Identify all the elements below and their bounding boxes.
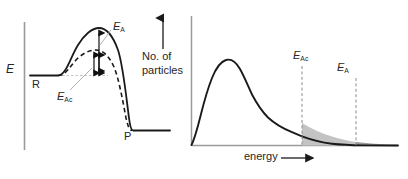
left-y-axis-label: E	[6, 63, 14, 76]
ea-leader-line	[100, 30, 111, 45]
x-axis-label-energy: energy	[244, 151, 278, 163]
uncatalyzed-energy-curve	[30, 28, 170, 131]
catalyzed-activation-energy-sub-subscript: c	[69, 96, 72, 103]
no-of-particles-line1: No. of	[142, 50, 171, 62]
product-label: P	[124, 131, 131, 143]
shaded-area-catalyzed-fraction	[302, 123, 356, 146]
reactant-label: R	[32, 79, 40, 91]
catalyzed-activation-energy-arrow	[94, 55, 99, 73]
activation-energy-label: EA	[113, 21, 125, 33]
no-of-particles-line2: particles	[142, 64, 183, 76]
marker-eac-sub-subscript: c	[305, 55, 308, 62]
catalyzed-activation-energy-label: EAc	[57, 91, 72, 103]
y-axis-label-no-of-particles: No. of particles	[142, 50, 194, 78]
eac-leader-line	[70, 68, 92, 90]
maxwell-boltzmann-curve	[192, 60, 399, 146]
marker-label-eac: EAc	[293, 50, 308, 62]
figure-container: E R P EA EAc No. of particles EAc EA ene…	[0, 0, 408, 179]
left-panel-energy-profile	[25, 18, 171, 150]
activation-energy-subscript: A	[120, 26, 125, 33]
marker-ea-subscript: A	[344, 67, 349, 74]
right-panel-distribution	[192, 16, 399, 158]
marker-label-ea: EA	[337, 62, 349, 74]
